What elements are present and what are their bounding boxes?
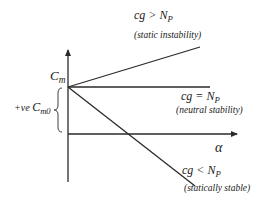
note-neutral-stability: (neutral stability) [176,105,243,115]
intercept-symbol: C [32,100,40,114]
condition-neutral-text: cg = N [181,89,214,103]
condition-stable-text: cg < N [182,163,215,177]
line-statically-stable [68,87,195,186]
y-label-main: C [50,68,59,83]
note-static-instability-text: (static instability) [134,30,201,40]
condition-unstable-text: cg > N [134,8,167,22]
condition-neutral-sub: P [214,95,219,105]
condition-unstable: cg > NP [134,8,173,24]
note-statically-stable: (statically stable) [184,183,250,193]
condition-stable: cg < NP [182,163,221,179]
stability-diagram: Cm +ve Cm0 α cg > NP (static instability… [0,0,269,202]
y-axis-label: Cm [50,68,65,85]
condition-unstable-sub: P [167,14,172,24]
intercept-prefix: +ve [14,102,32,113]
condition-stable-sub: P [215,169,220,179]
x-axis-label: α [215,140,222,156]
intercept-brace [54,88,62,132]
y-label-sub: m [59,75,66,85]
line-static-instability [68,47,200,87]
intercept-subscript: m0 [40,106,51,116]
condition-neutral: cg = NP [181,89,220,105]
intercept-label: +ve Cm0 [14,100,51,116]
